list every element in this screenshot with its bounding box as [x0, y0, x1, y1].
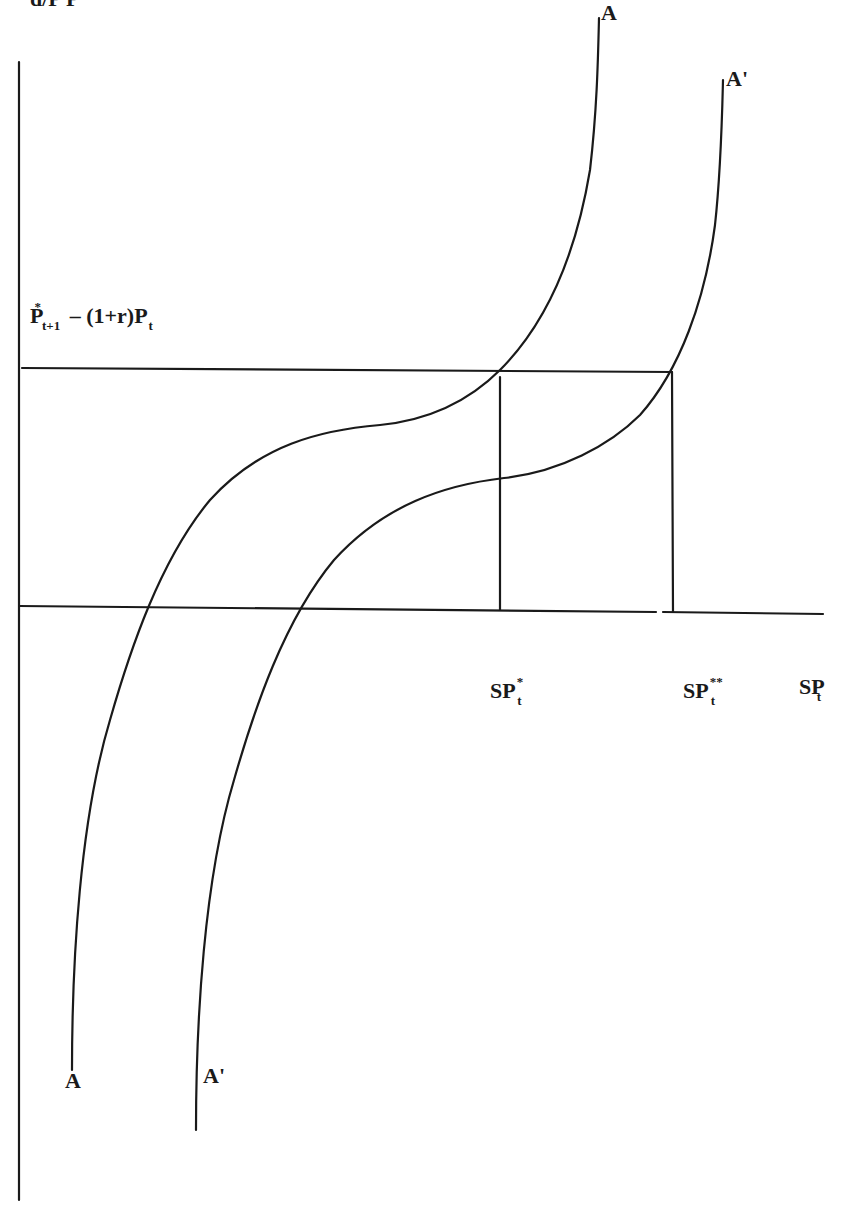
reference-price-line — [22, 368, 672, 372]
reference-price-label: P*t+1 – (1+r)Pt — [30, 305, 153, 327]
diagram-svg — [0, 0, 851, 1213]
x-label-sp-double-star: SP**t — [683, 680, 715, 702]
drop-line-sp-double-star — [672, 372, 673, 612]
curve-A — [72, 18, 599, 1070]
curve-A-prime-bottom-label: A' — [203, 1065, 225, 1087]
horizontal-axis-left — [19, 606, 656, 612]
curve-A-prime — [196, 80, 723, 1130]
x-label-sp-star: SP*t — [490, 680, 522, 702]
curve-A-bottom-label: A — [65, 1070, 81, 1092]
x-label-sp: SPt — [799, 676, 821, 698]
curve-A-top-label: A — [601, 2, 617, 24]
diagram-canvas: d/P P P*t+1 – (1+r)Pt A A' A A' SP*t — [0, 0, 851, 1213]
horizontal-axis-right — [663, 612, 823, 614]
curve-A-prime-top-label: A' — [726, 68, 748, 90]
